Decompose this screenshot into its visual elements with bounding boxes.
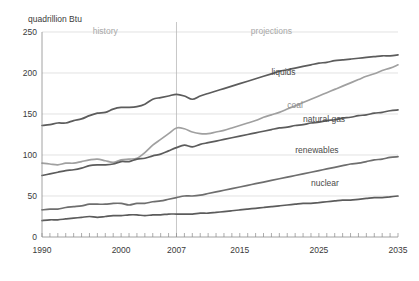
x-axis-tick-label: 2007	[167, 245, 186, 255]
y-axis-tick-labels: 050100150200250	[23, 27, 37, 242]
x-axis-tick-label: 2035	[389, 245, 408, 255]
y-axis-tick-label: 250	[23, 27, 37, 37]
series-line-nuclear	[42, 196, 398, 221]
axes	[42, 32, 398, 237]
x-axis-tick-label: 2025	[309, 245, 328, 255]
x-axis-tick-label: 2015	[230, 245, 249, 255]
period-annotations: historyprojections	[93, 26, 292, 36]
x-axis-tick-labels: 199020002007201520252035	[33, 245, 408, 255]
series-label-coal: coal	[287, 100, 303, 110]
x-axis-tick-label: 2000	[112, 245, 131, 255]
chart-canvas: 050100150200250 199020002007201520252035…	[0, 0, 419, 281]
x-axis-tick-label: 1990	[33, 245, 52, 255]
series-label-natural-gas: natural gas	[303, 114, 345, 124]
series-label-nuclear: nuclear	[311, 178, 339, 188]
series-label-renewables: renewables	[295, 145, 338, 155]
y-axis-tick-label: 0	[32, 232, 37, 242]
energy-projection-chart: 050100150200250 199020002007201520252035…	[0, 0, 419, 281]
y-axis-tick-label: 200	[23, 68, 37, 78]
y-axis-tick-label: 150	[23, 109, 37, 119]
series-label-liquids: liquids	[271, 67, 295, 77]
period-label-projections: projections	[251, 26, 292, 36]
y-axis-tick-label: 50	[28, 191, 38, 201]
y-axis-tick-label: 100	[23, 150, 37, 160]
period-label-history: history	[93, 26, 119, 36]
y-axis-unit-label: quadrillion Btu	[28, 14, 82, 24]
